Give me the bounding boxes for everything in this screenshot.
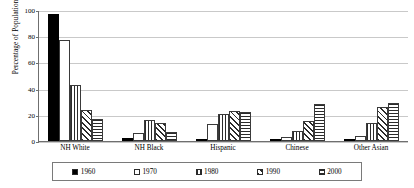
legend-item: 1970 [115, 168, 177, 176]
legend-label: 1960 [81, 168, 95, 176]
bar-group [334, 11, 408, 141]
bar [355, 136, 366, 141]
legend-label: 1970 [142, 168, 156, 176]
bar [196, 139, 207, 141]
bar [144, 120, 155, 141]
x-tick-label: Hispanic [186, 144, 260, 152]
legend-swatch-icon [319, 169, 325, 175]
y-tick-label: 80 [28, 33, 35, 41]
y-tick-mark [36, 142, 39, 143]
bar [59, 40, 70, 141]
x-tick-label: Chinese [260, 144, 334, 152]
legend-swatch-icon [196, 169, 202, 175]
y-tick-label: 40 [28, 86, 35, 94]
bar [70, 85, 81, 141]
bar-group [260, 11, 334, 141]
bar-groups [39, 11, 408, 141]
y-tick-label: 0 [32, 138, 36, 146]
bar [303, 121, 314, 141]
bar [48, 14, 59, 141]
bar [388, 103, 399, 141]
bar [122, 138, 133, 141]
bar [314, 104, 325, 141]
bar [366, 123, 377, 141]
gridline [39, 142, 408, 143]
bar [292, 131, 303, 141]
bar [240, 112, 251, 141]
legend-item: 2000 [299, 168, 361, 176]
bar-group [39, 11, 113, 141]
bar [377, 107, 388, 141]
y-axis-title: Percentage of Population [12, 0, 20, 97]
x-axis-tick-labels: NH WhiteNH BlackHispanicChineseOther Asi… [38, 144, 408, 152]
legend-label: 1980 [204, 168, 218, 176]
legend-item: 1960 [53, 168, 115, 176]
x-tick-label: NH White [38, 144, 112, 152]
bar [133, 133, 144, 141]
bar [207, 124, 218, 141]
bar [92, 119, 103, 141]
bar [344, 139, 355, 141]
y-tick-label: 20 [28, 112, 35, 120]
plot-area: 020406080100 [38, 11, 408, 142]
legend-swatch-icon [72, 169, 78, 175]
legend-label: 1990 [266, 168, 280, 176]
y-tick-label: 100 [25, 7, 36, 15]
x-tick-label: Other Asian [334, 144, 408, 152]
legend-item: 1980 [176, 168, 238, 176]
bar [281, 137, 292, 141]
bar [270, 139, 281, 141]
x-tick-label: NH Black [112, 144, 186, 152]
bar-group [113, 11, 187, 141]
bar-group [187, 11, 261, 141]
y-tick-label: 60 [28, 59, 35, 67]
bar [81, 110, 92, 141]
bar [155, 123, 166, 141]
legend-swatch-icon [257, 169, 263, 175]
legend-label: 2000 [327, 168, 341, 176]
legend-swatch-icon [134, 169, 140, 175]
bar [218, 114, 229, 142]
legend: 19601970198019902000 [52, 162, 362, 181]
bar-chart-figure: Percentage of Population 020406080100 NH… [0, 0, 414, 188]
legend-item: 1990 [238, 168, 300, 176]
bar [166, 132, 177, 141]
bar [229, 111, 240, 141]
